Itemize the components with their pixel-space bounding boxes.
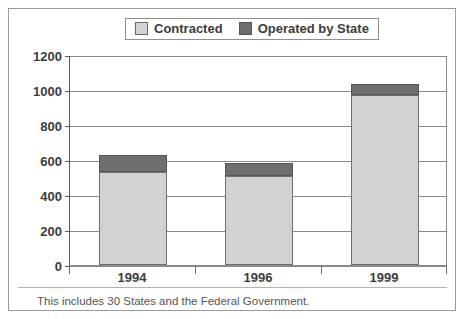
- plot-area: 020040060080010001200: [69, 56, 447, 266]
- ytick-mark-600: [65, 161, 70, 162]
- ytick-mark-1000: [65, 91, 70, 92]
- category-separator-0: [69, 266, 70, 274]
- chart-frame: Contracted Operated by State 02004006008…: [8, 8, 456, 311]
- bar-segment-1994-operated-by-state[interactable]: [99, 155, 167, 173]
- chart-footnote: This includes 30 States and the Federal …: [37, 294, 309, 308]
- ytick-label-400: 400: [40, 190, 62, 203]
- bar-group-1999[interactable]: [351, 55, 419, 265]
- ytick-mark-200: [65, 231, 70, 232]
- footnote-divider: [18, 287, 447, 288]
- bar-segment-1994-contracted[interactable]: [99, 172, 167, 265]
- category-label-1999: 1999: [370, 271, 399, 285]
- ytick-label-1000: 1000: [33, 85, 62, 98]
- bar-segment-1996-contracted[interactable]: [225, 176, 293, 265]
- bar-segment-1999-operated-by-state[interactable]: [351, 84, 419, 95]
- ytick-label-0: 0: [55, 260, 62, 273]
- legend-item-operated-by-state: Operated by State: [239, 22, 369, 35]
- category-label-1994: 1994: [118, 271, 147, 285]
- ytick-label-800: 800: [40, 120, 62, 133]
- category-separator-1: [195, 266, 196, 274]
- chart-legend: Contracted Operated by State: [125, 18, 379, 40]
- category-separator-3: [446, 266, 447, 274]
- category-label-1996: 1996: [244, 271, 273, 285]
- ytick-mark-1200: [65, 56, 70, 57]
- bar-segment-1999-contracted[interactable]: [351, 95, 419, 265]
- bar-group-1994[interactable]: [99, 55, 167, 265]
- category-separator-2: [321, 266, 322, 274]
- bar-group-1996[interactable]: [225, 55, 293, 265]
- legend-label-operated-by-state: Operated by State: [258, 22, 369, 35]
- legend-swatch-operated-by-state-icon: [239, 22, 252, 35]
- ytick-label-600: 600: [40, 155, 62, 168]
- ytick-mark-400: [65, 196, 70, 197]
- category-axis: 199419961999: [69, 266, 447, 288]
- bar-segment-1996-operated-by-state[interactable]: [225, 163, 293, 176]
- ytick-label-1200: 1200: [33, 50, 62, 63]
- ytick-mark-800: [65, 126, 70, 127]
- legend-item-contracted: Contracted: [135, 22, 223, 35]
- ytick-label-200: 200: [40, 225, 62, 238]
- clipped-header-text: [14, 0, 454, 3]
- legend-swatch-contracted-icon: [135, 22, 148, 35]
- legend-label-contracted: Contracted: [154, 22, 223, 35]
